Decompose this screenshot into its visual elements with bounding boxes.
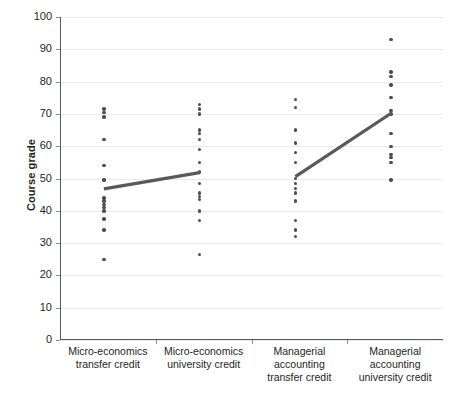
trend-line-segment bbox=[295, 113, 391, 176]
x-axis-category-labels: Micro-economicstransfer creditMicro-econ… bbox=[60, 345, 443, 395]
y-axis-tick-label: 30 bbox=[22, 237, 52, 248]
x-axis-category-label: Managerialaccountinguniversity credit bbox=[341, 345, 449, 384]
x-axis-tick bbox=[347, 340, 348, 344]
x-axis-category-label-line: university credit bbox=[150, 358, 258, 371]
y-axis-tick-label: 100 bbox=[22, 11, 52, 22]
y-axis-tick-label: 0 bbox=[22, 334, 52, 345]
y-axis-tick-label: 20 bbox=[22, 269, 52, 280]
y-axis-tick-label: 70 bbox=[22, 108, 52, 119]
y-axis-tick-label: 50 bbox=[22, 173, 52, 184]
y-axis-tick-labels: 0102030405060708090100 bbox=[18, 17, 52, 340]
x-axis-category-label: Managerialaccountingtransfer credit bbox=[246, 345, 354, 384]
x-axis-category-label-line: Micro-economics bbox=[54, 345, 162, 358]
y-axis-tick-label: 90 bbox=[22, 43, 52, 54]
x-axis-category-label-line: accounting bbox=[246, 358, 354, 371]
x-axis-category-label-line: accounting bbox=[341, 358, 449, 371]
x-axis-category-label: Micro-economicsuniversity credit bbox=[150, 345, 258, 371]
x-axis-category-label-line: university credit bbox=[341, 371, 449, 384]
chart-figure: Course grade 0102030405060708090100 Micr… bbox=[0, 0, 476, 398]
x-axis-tick bbox=[252, 340, 253, 344]
trend-line-segment bbox=[104, 173, 200, 189]
y-axis-tick-label: 80 bbox=[22, 76, 52, 87]
x-axis-category-label-line: Micro-economics bbox=[150, 345, 258, 358]
x-axis-category-label-line: transfer credit bbox=[54, 358, 162, 371]
x-axis-category-label-line: transfer credit bbox=[246, 371, 354, 384]
x-axis-category-label-line: Managerial bbox=[246, 345, 354, 358]
y-axis-tick-label: 60 bbox=[22, 140, 52, 151]
y-axis-tick-label: 40 bbox=[22, 205, 52, 216]
y-axis-tick-label: 10 bbox=[22, 302, 52, 313]
x-axis-category-label-line: Managerial bbox=[341, 345, 449, 358]
y-axis-tick bbox=[56, 340, 60, 341]
plot-area bbox=[60, 17, 443, 340]
trend-line bbox=[60, 17, 443, 340]
x-axis-category-label: Micro-economicstransfer credit bbox=[54, 345, 162, 371]
x-axis-tick bbox=[156, 340, 157, 344]
